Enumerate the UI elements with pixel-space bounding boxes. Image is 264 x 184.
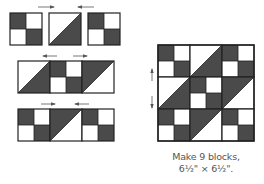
four-patch-unit (50, 61, 82, 93)
four-patch-unit (88, 13, 120, 45)
arrow-left-icon (74, 102, 89, 105)
four-patch-unit (18, 109, 50, 141)
half-square-triangle-unit (50, 109, 82, 141)
arrow-up-icon (150, 68, 153, 81)
four-patch-unit (190, 77, 222, 109)
half-square-triangle-unit (49, 13, 81, 45)
finished-block (150, 45, 254, 141)
four-patch-unit (222, 109, 254, 141)
four-patch-unit (222, 45, 254, 77)
half-square-triangle-unit (222, 77, 254, 109)
assembly-row-3 (18, 102, 114, 141)
arrow-left-icon (42, 54, 57, 57)
half-square-triangle-unit (190, 45, 222, 77)
half-square-triangle-unit (82, 61, 114, 93)
arrow-down-icon (150, 96, 153, 109)
caption-quantity: Make 9 blocks, (150, 151, 262, 163)
arrow-right-icon (41, 102, 56, 105)
arrow-right-icon (38, 5, 55, 8)
half-square-triangle-unit (190, 109, 222, 141)
half-square-triangle-unit (18, 61, 50, 93)
four-patch-unit (10, 13, 42, 45)
half-square-triangle-unit (158, 77, 190, 109)
four-patch-unit (158, 109, 190, 141)
arrow-right-icon (73, 54, 88, 57)
arrow-left-icon (77, 5, 94, 8)
block-caption: Make 9 blocks, 6½" × 6½". (150, 151, 262, 175)
four-patch-unit (158, 45, 190, 77)
caption-size: 6½" × 6½". (150, 163, 262, 175)
four-patch-unit (82, 109, 114, 141)
assembly-row-1 (10, 5, 120, 45)
assembly-row-2 (18, 54, 114, 93)
